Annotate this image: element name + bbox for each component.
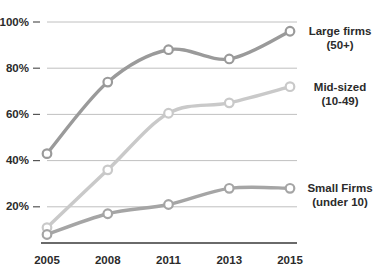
data-point-marker	[164, 45, 173, 54]
y-tick-label: 100%	[0, 16, 29, 28]
data-point-marker	[43, 230, 52, 239]
data-point-marker	[225, 55, 234, 64]
data-point-marker	[103, 209, 112, 218]
series-label-title: Mid-sized	[314, 81, 366, 93]
series-labels-group: Large firms(50+)Mid-sized(10-49)Small Fi…	[307, 25, 372, 208]
x-tick-label: 2013	[216, 254, 242, 266]
y-tick-label: 60%	[6, 108, 29, 120]
data-point-marker	[103, 78, 112, 87]
series-label-title: Large firms	[309, 25, 372, 37]
line-chart: 20%40%60%80%100% 20052008201120132015 La…	[0, 0, 377, 270]
y-tick-label: 20%	[6, 200, 29, 212]
data-point-marker	[286, 82, 295, 91]
y-axis-tick-labels: 20%40%60%80%100%	[0, 16, 29, 213]
data-point-marker	[286, 184, 295, 193]
series-label-sublabel: (50+)	[326, 39, 353, 51]
y-tick-marks-group	[33, 22, 40, 207]
data-point-marker	[164, 109, 173, 118]
data-point-marker	[225, 184, 234, 193]
x-axis-tick-labels: 20052008201120132015	[34, 254, 303, 266]
x-tick-label: 2011	[156, 254, 182, 266]
data-point-marker	[103, 166, 112, 175]
data-point-marker	[286, 27, 295, 36]
x-tick-label: 2008	[95, 254, 121, 266]
series-label-sublabel: (10-49)	[321, 95, 358, 107]
series-label-title: Small Firms	[307, 182, 372, 194]
y-tick-label: 80%	[6, 62, 29, 74]
data-point-marker	[164, 200, 173, 209]
series-label-sublabel: (under 10)	[312, 196, 368, 208]
y-tick-label: 40%	[6, 154, 29, 166]
data-point-marker	[225, 99, 234, 108]
chart-canvas: 20%40%60%80%100% 20052008201120132015 La…	[0, 0, 377, 270]
x-tick-label: 2005	[34, 254, 60, 266]
data-point-marker	[43, 149, 52, 158]
x-tick-label: 2015	[277, 254, 303, 266]
